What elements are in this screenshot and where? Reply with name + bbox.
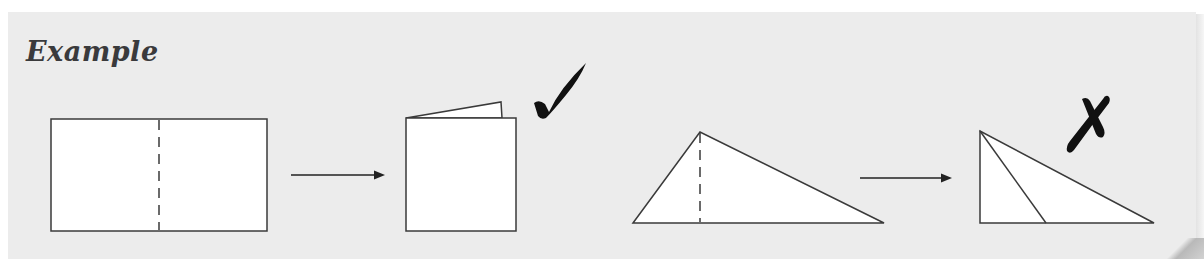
triangle-before-fold bbox=[633, 132, 884, 223]
triangle-after-fold bbox=[980, 131, 1154, 223]
fold-diagram bbox=[0, 0, 1204, 259]
check-mark-icon bbox=[534, 63, 586, 119]
arrow-icon bbox=[860, 174, 952, 183]
rectangle-before-fold bbox=[51, 119, 267, 231]
arrow-icon bbox=[291, 171, 385, 180]
rectangle-after-fold bbox=[406, 102, 516, 231]
cross-mark-icon bbox=[1067, 96, 1110, 153]
